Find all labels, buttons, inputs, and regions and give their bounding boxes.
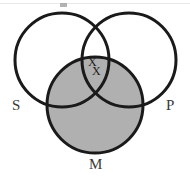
set-label-p: P bbox=[166, 98, 174, 113]
set-label-m: M bbox=[89, 157, 102, 172]
venn-canvas bbox=[0, 0, 190, 181]
venn-diagram-figure: S P M X X bbox=[0, 0, 190, 181]
set-label-s: S bbox=[12, 98, 20, 113]
region-mark-x-lower: X bbox=[92, 65, 101, 77]
